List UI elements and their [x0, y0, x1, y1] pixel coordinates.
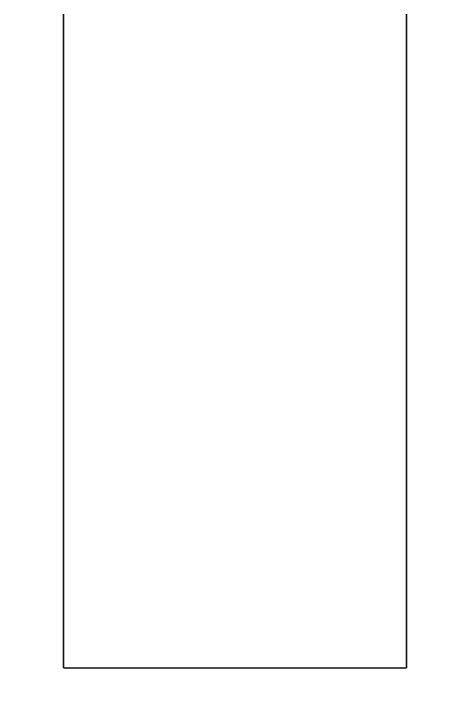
percent-correct-matching-chart [0, 0, 454, 705]
figure-container [0, 0, 454, 705]
